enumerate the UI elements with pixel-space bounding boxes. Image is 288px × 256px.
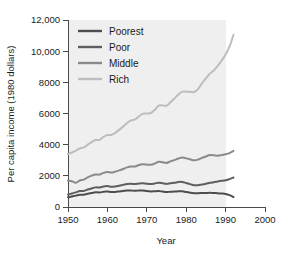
y-tick-label: 12,000 (31, 14, 60, 25)
x-axis-title: Year (156, 235, 175, 246)
x-axis-tick-labels: 195019601970198019902000 (57, 214, 275, 225)
y-tick-label: 10,000 (31, 46, 60, 57)
x-tick-label: 1950 (57, 214, 78, 225)
y-tick-label: 2000 (39, 170, 60, 181)
legend-label-poorest: Poorest (109, 26, 144, 37)
y-tick-label: 8000 (39, 77, 60, 88)
y-axis-tick-labels: 0200040006000800010,00012,000 (31, 14, 60, 212)
y-tick-label: 6000 (39, 108, 60, 119)
x-tick-label: 1970 (136, 214, 157, 225)
legend-label-middle: Middle (109, 58, 139, 69)
legend-label-rich: Rich (109, 74, 129, 85)
x-tick-label: 2000 (254, 214, 275, 225)
chart-figure: 0200040006000800010,00012,000 1950196019… (0, 0, 288, 256)
x-tick-label: 1960 (97, 214, 118, 225)
y-tick-label: 4000 (39, 139, 60, 150)
x-tick-label: 1980 (176, 214, 197, 225)
line-chart-canvas: 0200040006000800010,00012,000 1950196019… (0, 0, 288, 256)
y-axis-tick-marks (63, 20, 68, 207)
x-tick-label: 1990 (215, 214, 236, 225)
y-axis-title: Per capita income (1980 dollars) (5, 46, 16, 183)
y-tick-label: 0 (55, 201, 60, 212)
legend-label-poor: Poor (109, 42, 131, 53)
x-axis-tick-marks (68, 207, 265, 212)
